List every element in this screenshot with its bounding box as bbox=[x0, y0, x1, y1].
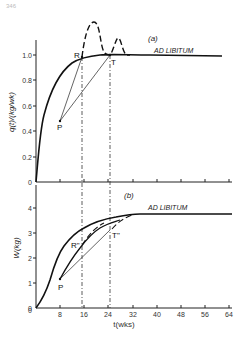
line-p-t2 bbox=[60, 230, 110, 279]
xtick-16: 16 bbox=[80, 311, 88, 318]
y-ticks-b: 0 1 2 3 4 bbox=[28, 205, 36, 312]
page-number: 346 bbox=[6, 3, 17, 9]
ad-libitum-label-b: AD LIBITUM bbox=[147, 204, 187, 211]
y-label-b: W(kg) bbox=[12, 237, 21, 259]
ytick-a-5: 1.0 bbox=[22, 52, 32, 59]
ytick-b-2: 2 bbox=[28, 255, 32, 262]
ytick-a-3: 0.6 bbox=[22, 103, 32, 110]
label-p-b: P bbox=[58, 283, 63, 292]
figure: 346 0 0.2 0.4 0.6 0.8 1.0 bbox=[0, 0, 249, 342]
ad-libitum-curve-b bbox=[36, 214, 232, 308]
xtick-64: 64 bbox=[225, 311, 233, 318]
ytick-b-3: 3 bbox=[28, 230, 32, 237]
xtick-40: 40 bbox=[153, 311, 161, 318]
line-p-r bbox=[60, 57, 82, 121]
ytick-a-1: 0.2 bbox=[22, 154, 32, 161]
point-t bbox=[109, 54, 111, 56]
x-label: t(wks) bbox=[113, 320, 135, 329]
line-p-t bbox=[60, 55, 110, 121]
panel-label-b: (b) bbox=[124, 191, 134, 200]
overshoot-curve-a bbox=[82, 22, 130, 57]
label-r2: R" bbox=[71, 241, 80, 250]
panel-a: 0 0.2 0.4 0.6 0.8 1.0 q(t)/(kg/wk) (a) A… bbox=[7, 22, 232, 308]
ytick-a-4: 0.8 bbox=[22, 77, 32, 84]
panel-b: 0 1 2 3 4 0 8 16 24 32 40 48 56 64 t(wks… bbox=[12, 185, 233, 329]
label-p-a: P bbox=[57, 123, 62, 132]
ad-libitum-curve-a bbox=[36, 55, 222, 182]
ad-libitum-label-a: AD LIBITUM bbox=[153, 47, 193, 54]
label-t2: T" bbox=[112, 231, 120, 240]
xtick-56: 56 bbox=[201, 311, 209, 318]
x-ticks-b: 0 8 16 24 32 40 48 56 64 bbox=[28, 305, 233, 318]
y-label-a: q(t)/(kg/wk) bbox=[7, 92, 16, 132]
y-ticks-a: 0 0.2 0.4 0.6 0.8 1.0 bbox=[22, 52, 36, 186]
point-p-b bbox=[59, 278, 61, 280]
xtick-48: 48 bbox=[177, 311, 185, 318]
point-r bbox=[81, 56, 83, 58]
xtick-32: 32 bbox=[129, 311, 137, 318]
xtick-8: 8 bbox=[58, 311, 62, 318]
ytick-a-2: 0.4 bbox=[22, 128, 32, 135]
xtick-24: 24 bbox=[104, 311, 112, 318]
label-r: R bbox=[74, 51, 80, 60]
ytick-a-0: 0 bbox=[28, 179, 32, 186]
ytick-b-1: 1 bbox=[28, 280, 32, 287]
label-t: T bbox=[111, 58, 116, 67]
xtick-0: 0 bbox=[28, 307, 32, 314]
ytick-b-4: 4 bbox=[28, 205, 32, 212]
point-p-a bbox=[59, 120, 61, 122]
panel-label-a: (a) bbox=[148, 34, 158, 43]
